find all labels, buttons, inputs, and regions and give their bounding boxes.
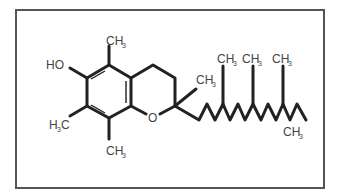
svg-text:3: 3 <box>288 60 292 67</box>
svg-text:CH: CH <box>283 125 300 139</box>
ring-oxygen-label: O <box>148 111 157 125</box>
svg-text:CH: CH <box>217 52 234 66</box>
chain-methyl-2-label: CH 3 <box>242 52 262 67</box>
svg-text:3: 3 <box>299 133 303 140</box>
methyl-top-label: CH 3 <box>106 34 126 49</box>
svg-text:C: C <box>61 118 70 132</box>
pyran-ring <box>131 65 175 114</box>
chain-methyl-3-label: CH 3 <box>272 52 292 67</box>
benzene-ring <box>87 65 131 118</box>
methyl-c2-label: CH 3 <box>196 73 216 88</box>
svg-text:CH: CH <box>106 34 123 48</box>
methyl-left-label: H 3 C <box>49 118 70 133</box>
svg-text:3: 3 <box>122 152 126 159</box>
methyl-bottom-label: CH 3 <box>106 144 126 159</box>
substituent-bonds <box>70 46 196 139</box>
molecule-diagram: HO O CH 3 H 3 C CH 3 CH 3 CH 3 CH 3 CH 3… <box>0 0 338 195</box>
phytyl-chain <box>175 66 306 120</box>
svg-text:3: 3 <box>233 60 237 67</box>
svg-text:CH: CH <box>196 73 213 87</box>
terminal-methyl-label: CH 3 <box>283 125 303 140</box>
svg-text:3: 3 <box>258 60 262 67</box>
svg-text:CH: CH <box>242 52 259 66</box>
chain-methyl-1-label: CH 3 <box>217 52 237 67</box>
svg-text:3: 3 <box>212 81 216 88</box>
svg-text:CH: CH <box>272 52 289 66</box>
svg-text:CH: CH <box>106 144 123 158</box>
hydroxyl-label: HO <box>46 58 64 72</box>
svg-text:3: 3 <box>122 42 126 49</box>
